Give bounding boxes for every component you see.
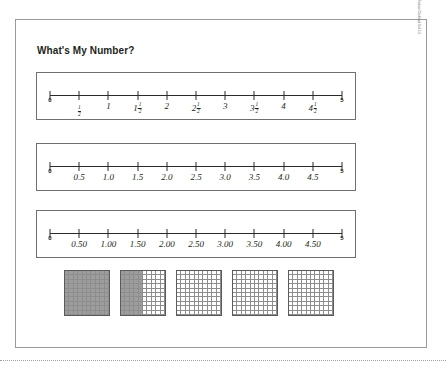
tick-mark [79,162,80,171]
whole-part: 3 [250,104,255,113]
tick-label: 1.5 [132,173,143,182]
tick-label: 5 [340,97,343,103]
tick-mark [108,91,109,100]
tick-label: 12 [77,102,81,117]
tick-label: 5 [340,168,343,174]
tick-mark [196,229,197,238]
tick-label: 2.50 [188,240,204,249]
grid-cell [105,311,109,315]
tick-mark [312,91,313,100]
tick-mark [283,162,284,171]
tick-label: 2.00 [159,240,175,249]
tick-label: 1.00 [101,240,117,249]
tick-label: 2.5 [190,173,201,182]
tick-label: 4.00 [276,240,292,249]
tick-mark [166,162,167,171]
tick-mark [254,229,255,238]
tick-label: 3 [223,102,228,111]
grid-cell [161,311,165,315]
tick-label: 4.0 [278,173,289,182]
tick-label: 2 [165,102,170,111]
tick-label: 3.0 [220,173,231,182]
tick-mark [137,229,138,238]
tick-mark [254,162,255,171]
whole-part: 4 [309,104,314,113]
tick-mark [225,162,226,171]
tick-mark [254,91,255,100]
tick-mark [283,91,284,100]
hundred-grid [288,270,334,316]
numberline-axis-fractions: 01211122212331244125 [50,95,342,96]
whole-part: 1 [133,104,138,113]
tick-mark [166,229,167,238]
tick-label: 3.50 [247,240,263,249]
grid-cell [273,311,277,315]
tick-label: 112 [133,102,142,114]
tick-mark [166,91,167,100]
numberline-axis-tenths: 00.51.01.52.02.53.03.54.04.55 [50,166,342,167]
fraction-part: 12 [138,102,142,114]
tick-mark [225,91,226,100]
tick-label: 412 [309,102,318,114]
fraction-denominator: 2 [78,112,81,118]
worksheet-page: What's My Number? Math & Science Chartbo… [15,19,427,348]
tick-label: 4.50 [305,240,321,249]
grid-cell [329,311,333,315]
tick-label: 1.50 [130,240,146,249]
page-bottom-divider [0,360,446,362]
tick-mark [312,229,313,238]
fraction-part: 12 [197,102,201,114]
fraction-denominator: 2 [255,109,258,115]
numberline-panel-fractions: 01211122212331244125 [36,72,356,120]
tick-label: 3.00 [217,240,233,249]
page-title: What's My Number? [37,45,134,56]
tick-label: 4 [281,102,286,111]
hundred-grid [176,270,222,316]
tick-label: 0 [48,235,51,241]
tick-mark [79,91,80,100]
hundred-grid-row [64,270,334,320]
hundred-grid [120,270,166,316]
fraction-part: 12 [255,102,259,114]
tick-mark [108,229,109,238]
numberline-axis-hundredths: 00.501.001.502.002.503.003.504.004.505 [50,233,342,234]
tick-mark [283,229,284,238]
tick-mark [225,229,226,238]
tick-label: 0 [48,168,51,174]
tick-label: 2.0 [161,173,172,182]
tick-label: 1.0 [103,173,114,182]
tick-mark [108,162,109,171]
tick-label: 0.50 [71,240,87,249]
fraction-part: 12 [78,105,82,117]
fraction-denominator: 2 [314,109,317,115]
fraction-part: 12 [313,102,317,114]
tick-mark [312,162,313,171]
tick-mark [79,229,80,238]
margin-credit-text: Math & Science Chartbook Unit 5.6 [417,0,420,34]
fraction-denominator: 2 [139,109,142,115]
tick-label: 0.5 [74,173,85,182]
tick-label: 3.5 [249,173,260,182]
numberline-panel-tenths: 00.51.01.52.02.53.03.54.04.55 [36,143,356,191]
hundred-grid [64,270,110,316]
tick-label: 312 [250,102,259,114]
tick-label: 4.5 [307,173,318,182]
whole-part: 2 [192,104,197,113]
tick-mark [196,91,197,100]
tick-mark [196,162,197,171]
tick-mark [137,162,138,171]
grid-cell [217,311,221,315]
tick-mark [137,91,138,100]
tick-label: 212 [192,102,201,114]
tick-label: 0 [48,97,51,103]
fraction-denominator: 2 [197,109,200,115]
hundred-grid [232,270,278,316]
tick-label: 1 [106,102,111,111]
numberline-panel-hundredths: 00.501.001.502.002.503.003.504.004.505 [36,210,356,258]
tick-label: 5 [340,235,343,241]
